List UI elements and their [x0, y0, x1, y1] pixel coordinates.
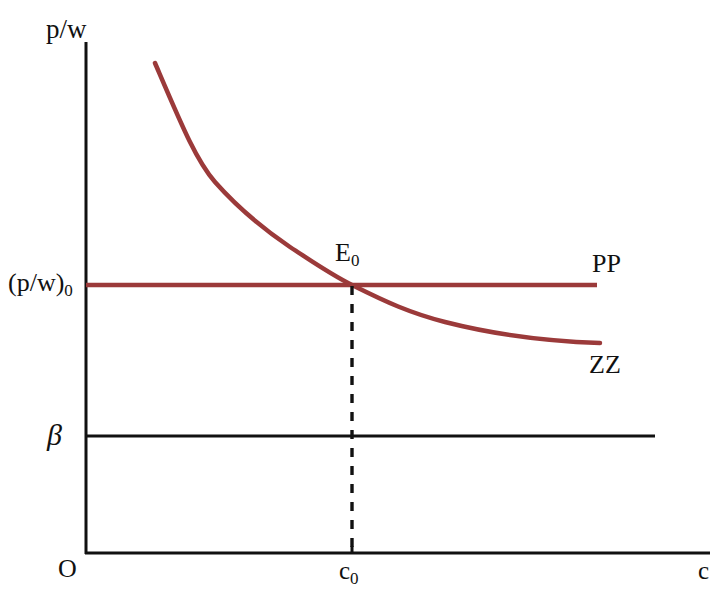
- equilibrium-subscript: 0: [351, 251, 360, 270]
- beta-axis-label: β: [47, 420, 62, 450]
- equilibrium-point-label: E0: [335, 240, 359, 269]
- c-zero-subscript: 0: [350, 569, 359, 588]
- c-zero-base: c: [339, 557, 350, 584]
- pp-curve-label: PP: [592, 251, 621, 277]
- diagram-canvas: [0, 0, 716, 599]
- y-axis-label: p/w: [46, 16, 87, 43]
- pw-zero-subscript: 0: [64, 281, 73, 300]
- c-zero-axis-label: c0: [339, 558, 359, 587]
- equilibrium-base: E: [335, 238, 351, 267]
- pw-zero-axis-label: (p/w)0: [8, 270, 73, 299]
- pw-zero-base: (p/w): [8, 268, 64, 297]
- economics-diagram: p/w (p/w)0 β O c0 c E0 PP ZZ: [0, 0, 716, 599]
- zz-schedule-curve: [155, 63, 600, 343]
- zz-curve-label: ZZ: [589, 352, 621, 378]
- origin-label: O: [58, 556, 77, 582]
- x-axis-label: c: [698, 558, 709, 583]
